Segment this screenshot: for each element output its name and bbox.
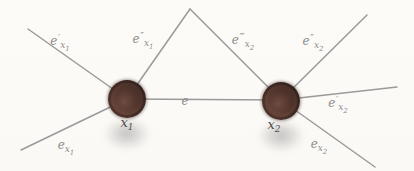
label-e-x1: ex1 xyxy=(58,139,75,153)
graph-diagram: x1x2 e′x1e″x1e‴x2e″x2eex1e′x2ex2 xyxy=(0,0,414,171)
label-e-double-prime-x2: e″x2 xyxy=(303,35,324,49)
label-e-double-prime-x1: e″x1 xyxy=(133,33,154,47)
edge-e xyxy=(127,99,281,100)
label-e: e xyxy=(181,95,188,107)
label-e-prime-x1: e′x1 xyxy=(50,35,69,49)
node-x1-label: x1 xyxy=(120,116,133,129)
node-x2-label: x2 xyxy=(267,118,280,131)
label-e-x2: ex2 xyxy=(311,138,328,152)
label-e-triple-prime-x2: e‴x2 xyxy=(232,34,254,48)
node-x1-gloss xyxy=(111,83,143,115)
node-x1 xyxy=(108,80,146,118)
label-e-prime-x2: e′x2 xyxy=(328,97,347,111)
node-x2-gloss xyxy=(265,85,297,117)
node-x2-reflection xyxy=(258,122,304,152)
node-x2 xyxy=(262,82,300,120)
